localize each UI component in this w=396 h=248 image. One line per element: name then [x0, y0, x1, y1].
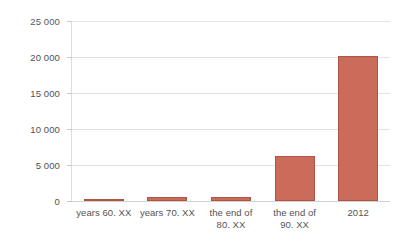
y-axis-tick-label-0: 0 — [55, 197, 60, 207]
x-axis-label-end-of-80-xx: the end of 80. XX — [199, 207, 263, 231]
y-axis-tick-label-15000: 15 000 — [30, 89, 60, 99]
bar-chart-figure: 25 000 20 000 15 000 10 000 5 000 0 year… — [0, 0, 396, 248]
bar-slot — [72, 21, 136, 201]
bar-end-of-90-xx — [275, 156, 315, 201]
bar-slot — [263, 21, 327, 201]
plot-area — [72, 21, 390, 201]
bar-years-60-xx — [84, 199, 124, 201]
bar-slot — [136, 21, 200, 201]
bar-end-of-80-xx — [211, 197, 251, 201]
y-axis-tick-label-20000: 20 000 — [30, 53, 60, 63]
bar-slot — [326, 21, 390, 201]
x-axis-label-end-of-90-xx: the end of 90. XX — [263, 207, 327, 231]
x-axis-label-years-70-xx: years 70. XX — [136, 207, 200, 219]
bar-slot — [199, 21, 263, 201]
x-axis-label-years-60-xx: years 60. XX — [72, 207, 136, 219]
y-axis-tick-label-10000: 10 000 — [30, 125, 60, 135]
bar-2012 — [338, 56, 378, 201]
x-axis-label-2012: 2012 — [326, 207, 390, 219]
gridline-baseline-0 — [72, 201, 390, 202]
bar-years-70-xx — [147, 197, 187, 201]
y-axis-tick-label-25000: 25 000 — [30, 17, 60, 27]
y-axis-tick-label-5000: 5 000 — [36, 161, 60, 171]
